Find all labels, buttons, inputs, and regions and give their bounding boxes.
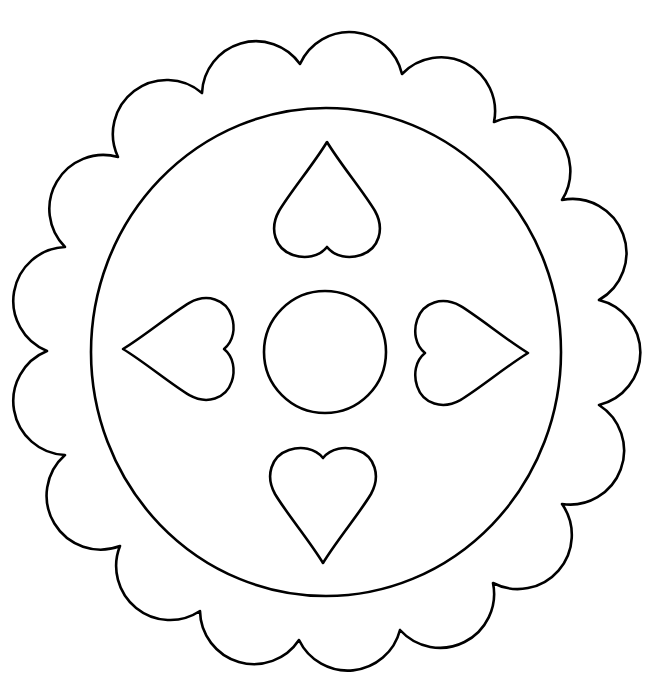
center-circle (264, 291, 386, 413)
coloring-page-canvas (0, 0, 651, 684)
